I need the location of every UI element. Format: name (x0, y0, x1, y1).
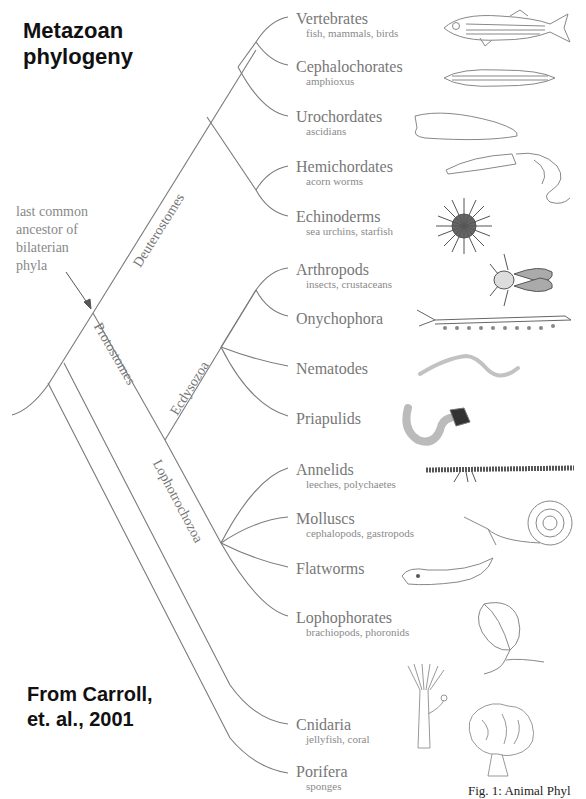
taxon-name: Onychophora (296, 310, 383, 327)
roundworm-icon (416, 350, 526, 386)
brachiopod-icon (470, 596, 550, 676)
taxon-cephalochordates: Cephalochorates amphioxus (296, 58, 403, 87)
taxon-priapulids: Priapulids (296, 410, 361, 427)
taxon-name: Annelids (296, 461, 396, 478)
taxon-echinoderms: Echinoderms sea urchins, starfish (296, 208, 393, 237)
taxon-name: Molluscs (296, 510, 414, 527)
taxon-onychophora: Onychophora (296, 310, 383, 327)
fish-icon (440, 8, 580, 48)
taxon-examples: fish, mammals, birds (296, 27, 398, 39)
taxon-examples: cephalopods, gastropods (296, 527, 414, 539)
hydra-icon (400, 664, 460, 754)
flatworm-icon (398, 556, 498, 588)
taxon-name: Cephalochorates (296, 58, 403, 75)
taxon-arthropods: Arthropods insects, crustaceans (296, 261, 392, 290)
taxon-name: Flatworms (296, 560, 364, 577)
taxon-hemichordates: Hemichordates acorn worms (296, 158, 393, 187)
taxon-porifera: Porifera sponges (296, 763, 348, 792)
taxon-name: Nematodes (296, 360, 368, 377)
sponge-icon (462, 700, 542, 780)
lancelet-icon (440, 66, 560, 90)
taxon-urochordates: Urochordates ascidians (296, 108, 382, 137)
taxon-name: Lophophorates (296, 609, 409, 626)
priapulid-icon (400, 400, 480, 450)
taxon-examples: amphioxus (296, 75, 403, 87)
polychaete-icon (424, 460, 582, 484)
taxon-examples: insects, crustaceans (296, 278, 392, 290)
taxon-lophophorates: Lophophorates brachiopods, phoronids (296, 609, 409, 638)
taxon-examples: ascidians (296, 125, 382, 137)
citation-line-1: From Carroll, (27, 682, 153, 707)
taxon-molluscs: Molluscs cephalopods, gastropods (296, 510, 414, 539)
source-citation: From Carroll, et. al., 2001 (27, 682, 153, 732)
taxon-annelids: Annelids leeches, polychaetes (296, 461, 396, 490)
citation-line-2: et. al., 2001 (27, 707, 153, 732)
taxon-examples: sea urchins, starfish (296, 225, 393, 237)
velvet-worm-icon (415, 306, 575, 334)
taxon-vertebrates: Vertebrates fish, mammals, birds (296, 10, 398, 39)
taxon-name: Vertebrates (296, 10, 398, 27)
taxon-examples: sponges (296, 780, 348, 792)
fly-icon (480, 250, 560, 310)
taxon-name: Echinoderms (296, 208, 393, 225)
taxon-name: Arthropods (296, 261, 392, 278)
sea-urchin-icon (432, 196, 496, 256)
taxon-name: Hemichordates (296, 158, 393, 175)
taxon-name: Priapulids (296, 410, 361, 427)
figure-caption: Fig. 1: Animal Phyl (468, 783, 571, 799)
taxon-name: Porifera (296, 763, 348, 780)
snail-icon (460, 495, 580, 555)
taxon-examples: brachiopods, phoronids (296, 626, 409, 638)
taxon-name: Cnidaria (296, 716, 370, 733)
taxon-examples: jellyfish, coral (296, 733, 370, 745)
taxon-examples: leeches, polychaetes (296, 478, 396, 490)
taxon-nematodes: Nematodes (296, 360, 368, 377)
tunicate-icon (405, 108, 525, 144)
root-branch (12, 385, 48, 415)
taxon-examples: acorn worms (296, 175, 393, 187)
taxon-name: Urochordates (296, 108, 382, 125)
taxon-cnidaria: Cnidaria jellyfish, coral (296, 716, 370, 745)
taxon-flatworms: Flatworms (296, 560, 364, 577)
